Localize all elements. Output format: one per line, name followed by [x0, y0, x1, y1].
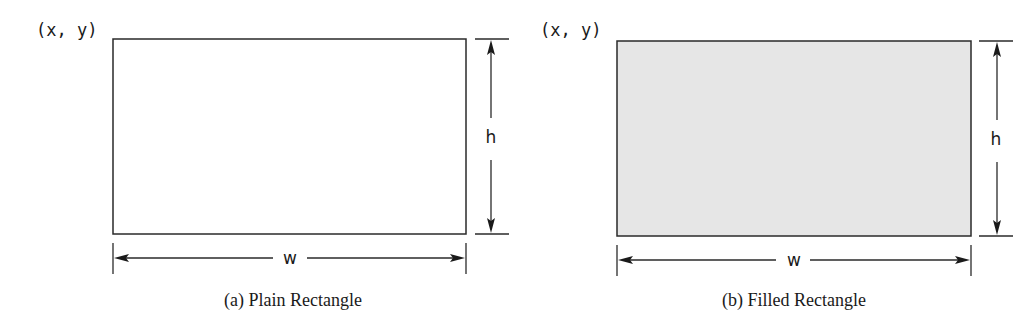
origin-label: (x, y)	[540, 20, 601, 40]
figure-plain-rectangle: (x, y)hw(a) Plain Rectangle	[36, 20, 509, 311]
origin-label: (x, y)	[36, 20, 97, 40]
rectangle-diagram: (x, y)hw(a) Plain Rectangle (x, y)hw(b) …	[0, 0, 1032, 324]
width-label: w	[787, 250, 801, 270]
plain-rectangle	[113, 39, 466, 234]
figure-caption: (b) Filled Rectangle	[722, 290, 866, 311]
height-dimension: h	[475, 39, 509, 234]
height-label: h	[486, 127, 497, 147]
width-dimension: w	[617, 245, 971, 276]
filled-rectangle	[617, 41, 971, 236]
height-dimension: h	[979, 41, 1013, 236]
figure-caption: (a) Plain Rectangle	[224, 290, 362, 311]
width-label: w	[283, 248, 297, 268]
height-label: h	[991, 129, 1002, 149]
width-dimension: w	[113, 243, 466, 274]
figure-filled-rectangle: (x, y)hw(b) Filled Rectangle	[540, 20, 1013, 311]
